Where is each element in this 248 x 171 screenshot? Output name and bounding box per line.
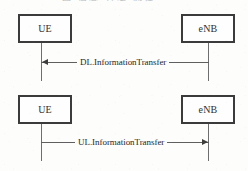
participant-label-enb: eNB: [199, 105, 218, 115]
participant-label-ue: UE: [38, 105, 52, 115]
participant-box-ue[interactable]: UE: [18, 14, 72, 43]
participant-box-enb[interactable]: eNB: [181, 95, 235, 124]
panel-uplink: UE eNB UL.InformationTransfer: [0, 81, 248, 171]
participant-label-enb: eNB: [199, 24, 218, 34]
message-dl-information-transfer[interactable]: DL.InformationTransfer: [41, 56, 209, 68]
message-label: DL.InformationTransfer: [77, 56, 169, 68]
participant-box-enb[interactable]: eNB: [181, 14, 235, 43]
sequence-diagram: 图 信息 传递 流程 UE eNB DL.InformationTransfer…: [0, 0, 248, 171]
participant-label-ue: UE: [38, 24, 52, 34]
panel-downlink: UE eNB DL.InformationTransfer: [0, 0, 248, 88]
message-ul-information-transfer[interactable]: UL.InformationTransfer: [41, 136, 209, 148]
arrowhead-right-icon: [202, 139, 208, 145]
participant-box-ue[interactable]: UE: [18, 95, 72, 124]
arrowhead-left-icon: [42, 59, 48, 65]
message-label: UL.InformationTransfer: [75, 136, 167, 148]
